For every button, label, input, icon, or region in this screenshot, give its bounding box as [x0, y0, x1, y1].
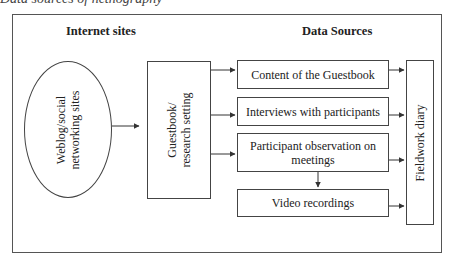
connector-arrows — [0, 0, 451, 258]
